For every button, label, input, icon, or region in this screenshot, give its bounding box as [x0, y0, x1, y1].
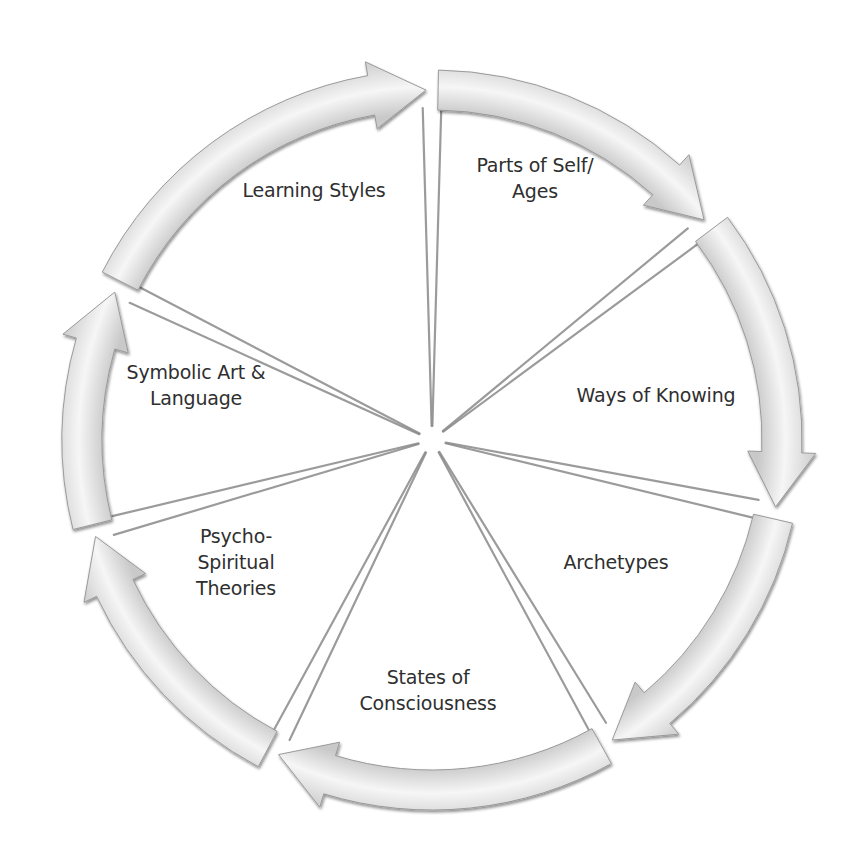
divider-line	[114, 444, 419, 535]
label-states-of-consciousness: States of Consciousness	[359, 664, 496, 716]
arrow-ways-of-knowing-icon	[696, 217, 816, 506]
divider-line	[446, 443, 759, 500]
label-archetypes: Archetypes	[564, 549, 669, 575]
cycle-diagram	[0, 0, 866, 844]
divider-line	[109, 443, 418, 517]
divider-line	[432, 108, 441, 426]
label-psycho-spiritual-theories: Psycho- Spiritual Theories	[196, 523, 276, 601]
divider-line	[446, 443, 755, 518]
label-learning-styles: Learning Styles	[242, 177, 385, 203]
divider-line	[423, 108, 432, 426]
arrow-symbolic-art-language-icon	[62, 292, 128, 529]
arrow-learning-styles-icon	[102, 62, 426, 290]
label-parts-of-self-ages: Parts of Self/ Ages	[476, 152, 593, 204]
label-ways-of-knowing: Ways of Knowing	[577, 382, 736, 408]
arrow-states-of-consciousness-icon	[279, 729, 612, 810]
label-symbolic-art-language: Symbolic Art & Language	[127, 359, 266, 411]
